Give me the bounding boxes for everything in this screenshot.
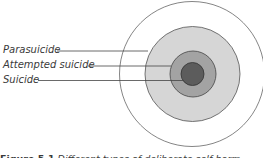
- label-parasuicide: Parasuicide: [3, 44, 61, 56]
- figure-caption: Figure 5.1 Different types of deliberate…: [0, 153, 241, 158]
- concentric-circles-diagram: [0, 0, 263, 158]
- caption-number: Figure 5.1: [0, 153, 55, 158]
- label-suicide: Suicide: [3, 74, 39, 86]
- label-attempted-suicide: Attempted suicide: [3, 59, 95, 71]
- caption-text: Different types of deliberate self-harm: [58, 153, 241, 158]
- suicide-circle: [181, 63, 204, 86]
